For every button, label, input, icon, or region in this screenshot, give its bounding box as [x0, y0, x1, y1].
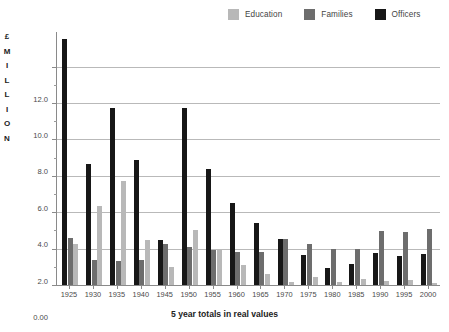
bar-officers-1980 [325, 268, 330, 285]
bar-families-1965 [259, 252, 264, 285]
x-axis-tick [117, 285, 118, 289]
bar-families-1925 [68, 238, 73, 285]
y-axis-tick-label: 8.0 [37, 167, 48, 176]
bar-officers-1945 [158, 240, 163, 285]
bar-group [201, 32, 225, 285]
x-axis-tick-label: 1955 [204, 290, 220, 299]
y-axis-tick-labels: 0.002.04.06.08.010.012.0 [0, 32, 57, 285]
legend-item-officers: Officers [375, 9, 421, 20]
x-axis-tick-label: 1960 [228, 290, 244, 299]
x-axis-tick-label: 1995 [396, 290, 412, 299]
bar-education-1930 [97, 206, 102, 285]
bar-families-1980 [331, 249, 336, 285]
x-axis-tick-label: 1985 [348, 290, 364, 299]
bar-education-1935 [121, 181, 126, 285]
legend-label-education: Education [245, 10, 282, 19]
bar-officers-1925 [62, 39, 67, 285]
bar-education-1960 [241, 265, 246, 285]
bar-chart: Education Families Officers £MILLION 0.0… [0, 0, 449, 332]
bar-officers-1990 [373, 253, 378, 285]
x-axis-tick [141, 285, 142, 289]
bar-education-1975 [313, 277, 318, 285]
bar-education-1955 [217, 250, 222, 285]
legend-label-families: Families [321, 10, 352, 19]
x-axis-tick-label: 1975 [300, 290, 316, 299]
x-axis-tick [69, 285, 70, 289]
x-axis-tick [404, 285, 405, 289]
bar-families-2000 [427, 229, 432, 285]
y-axis-tick-label: 2.0 [37, 276, 48, 285]
bar-officers-1935 [110, 108, 115, 285]
y-axis-tick-label: 6.0 [37, 203, 48, 212]
bar-group [296, 32, 320, 285]
bar-officers-1975 [301, 255, 306, 285]
bar-officers-1930 [86, 164, 91, 285]
x-axis-tick [260, 285, 261, 289]
x-axis-title: 5 year totals in real values [0, 309, 449, 319]
bar-officers-1970 [278, 239, 283, 285]
bar-families-1930 [92, 260, 97, 285]
x-axis-tick-label: 1940 [133, 290, 149, 299]
x-axis-tick [213, 285, 214, 289]
bar-officers-2000 [421, 254, 426, 285]
y-axis-tick-label: 10.0 [33, 130, 48, 139]
y-axis-tick-label: 4.0 [37, 240, 48, 249]
x-axis-tick [380, 285, 381, 289]
bar-families-1935 [116, 261, 121, 285]
bar-group [177, 32, 201, 285]
bar-groups [57, 32, 440, 285]
x-axis-tick-label: 2000 [420, 290, 436, 299]
bar-group [57, 32, 81, 285]
plot-area [57, 32, 440, 285]
x-axis-tick [93, 285, 94, 289]
bar-officers-1995 [397, 256, 402, 285]
x-axis-tick-label: 1935 [109, 290, 125, 299]
x-axis-tick [332, 285, 333, 289]
bar-officers-1950 [182, 108, 187, 285]
x-axis-tick-label: 1970 [276, 290, 292, 299]
x-axis-tick [284, 285, 285, 289]
chart-legend: Education Families Officers [228, 9, 442, 20]
bar-families-1950 [187, 247, 192, 285]
bar-families-1995 [403, 232, 408, 285]
bar-group [344, 32, 368, 285]
x-axis-tick [356, 285, 357, 289]
bar-group [81, 32, 105, 285]
bar-group [249, 32, 273, 285]
bar-officers-1940 [134, 160, 139, 285]
bar-families-1970 [283, 239, 288, 285]
legend-swatch-families [304, 9, 315, 20]
bar-families-1955 [211, 250, 216, 285]
y-axis-tick-label: 12.0 [33, 94, 48, 103]
bar-group [320, 32, 344, 285]
x-axis-tick [237, 285, 238, 289]
x-axis-tick-labels: 1925193019351940194519501955196019651970… [57, 290, 440, 302]
bar-families-1990 [379, 231, 384, 285]
legend-swatch-education [228, 9, 239, 20]
x-axis-tick-label: 1945 [156, 290, 172, 299]
x-axis-tick [308, 285, 309, 289]
bar-group [129, 32, 153, 285]
bar-group [368, 32, 392, 285]
x-axis-tick-label: 1925 [61, 290, 77, 299]
bar-officers-1960 [230, 203, 235, 285]
x-axis-tick [189, 285, 190, 289]
bar-group [105, 32, 129, 285]
bar-education-1945 [169, 267, 174, 285]
x-axis-tick [428, 285, 429, 289]
x-axis-tick [165, 285, 166, 289]
bar-families-1960 [235, 252, 240, 285]
bar-families-1975 [307, 244, 312, 285]
x-axis-tick-label: 1965 [252, 290, 268, 299]
x-axis-tick-label: 1950 [180, 290, 196, 299]
bar-education-1925 [73, 244, 78, 285]
bar-officers-1965 [254, 223, 259, 285]
bar-officers-1985 [349, 264, 354, 285]
bar-families-1985 [355, 249, 360, 285]
bar-group [153, 32, 177, 285]
legend-item-education: Education [228, 9, 282, 20]
bar-education-1965 [265, 274, 270, 285]
bar-group [392, 32, 416, 285]
bar-group [416, 32, 440, 285]
bar-families-1940 [139, 260, 144, 285]
